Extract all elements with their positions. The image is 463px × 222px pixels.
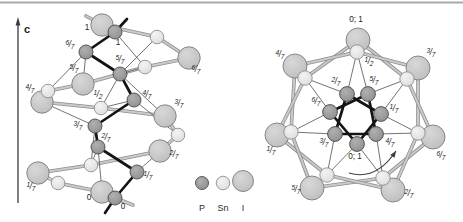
legend-label-I: I	[242, 203, 245, 213]
atom-label: 4/7	[25, 83, 34, 95]
atom-P	[328, 127, 343, 142]
atom-P	[88, 119, 102, 133]
atom-P	[361, 87, 376, 102]
legend: PSnI	[196, 171, 254, 213]
atom-Sn	[51, 176, 65, 190]
atom-label: 1/7	[389, 103, 398, 115]
atom-Sn	[150, 30, 164, 44]
c-axis-arrowhead-icon	[16, 17, 21, 26]
atom-label: 5/7	[369, 75, 378, 87]
atom-Sn	[94, 101, 108, 115]
atom-label: 1	[116, 38, 121, 47]
legend-swatch-I	[233, 171, 254, 192]
atom-P	[374, 107, 389, 122]
atom-label: 3/7	[174, 98, 183, 110]
atom-I	[154, 105, 176, 127]
legend-swatch-P	[196, 177, 209, 190]
atom-label: 1	[85, 23, 90, 32]
atom-Sn	[41, 84, 55, 98]
atom-Sn	[411, 126, 425, 140]
atom-label: 5/7	[115, 54, 124, 66]
atom-Sn	[376, 171, 390, 185]
atom-P	[130, 165, 144, 179]
atom-Sn	[138, 60, 152, 74]
figure-svg: c16/75/74/73/72/71/701/216/75/74/73/72/7…	[0, 0, 463, 222]
legend-label-Sn: Sn	[217, 203, 228, 213]
atom-I	[421, 125, 445, 149]
atom-P	[323, 105, 338, 120]
c-axis-label: c	[24, 23, 30, 35]
atom-label: 5/7	[69, 63, 78, 75]
atom-label: 3/7	[319, 137, 328, 149]
atom-I	[300, 176, 324, 200]
atom-label: 4/7	[275, 49, 284, 61]
atom-label: 5/7	[291, 184, 300, 196]
atom-P	[113, 67, 127, 81]
atom-Sn	[350, 45, 364, 59]
atom-label: 6/7	[65, 39, 74, 51]
atom-P	[369, 127, 384, 142]
atom-Sn	[84, 158, 98, 172]
atom-label: 3/7	[73, 120, 82, 132]
atom-P	[127, 93, 141, 107]
atom-P	[350, 137, 365, 152]
helix-side-view: 16/75/74/73/72/71/701/216/75/74/73/72/71…	[25, 14, 200, 213]
atom-label: 2/7	[330, 76, 340, 88]
atom-label: 4/7	[385, 137, 394, 149]
atom-I	[72, 73, 94, 95]
atom-P	[340, 87, 355, 102]
atom-label: 1/2	[93, 89, 102, 101]
atom-Sn	[284, 125, 298, 139]
atom-Sn	[320, 168, 334, 182]
atom-label: 4/7	[142, 89, 151, 101]
atom-label: 2/7	[168, 149, 178, 161]
atom-label: 6/7	[436, 150, 445, 162]
legend-swatch-Sn	[216, 176, 230, 190]
atom-label: 2/7	[403, 188, 413, 200]
atom-Sn	[171, 128, 185, 142]
legend-label-P: P	[199, 203, 205, 213]
atom-P	[108, 25, 122, 39]
rotation-arrowhead-icon	[390, 151, 396, 158]
atom-label: 1/7	[143, 170, 152, 182]
atom-label: 3/7	[426, 47, 435, 59]
atom-label: 0; 1	[348, 152, 362, 161]
atom-Sn	[400, 72, 414, 86]
atom-label: 0	[121, 202, 126, 211]
atom-Sn	[298, 71, 312, 85]
atom-label: 0; 1	[349, 15, 363, 24]
atom-P	[91, 140, 105, 154]
atom-P	[79, 45, 93, 59]
atom-label: 6/7	[191, 64, 200, 76]
crystal-structure-figure: c16/75/74/73/72/71/701/216/75/74/73/72/7…	[0, 0, 463, 222]
atom-label: 0	[87, 193, 92, 202]
helix-projection: 0; 14/73/71/76/75/72/71/22/75/76/71/73/7…	[265, 15, 446, 202]
atom-I	[149, 140, 171, 162]
